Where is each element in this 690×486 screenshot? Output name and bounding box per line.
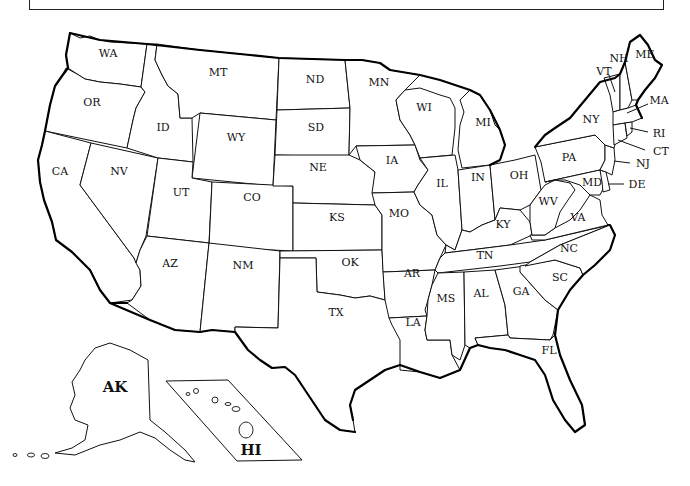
label-NH: NH	[609, 52, 628, 65]
state-FL[interactable]	[475, 335, 585, 432]
label-HI: HI	[240, 441, 261, 459]
label-SD: SD	[308, 121, 325, 134]
label-WV: WV	[538, 195, 558, 208]
state-CT[interactable]	[613, 123, 627, 145]
label-NJ: NJ	[636, 157, 650, 170]
aleutian-island	[28, 453, 35, 457]
label-NC: NC	[560, 242, 578, 255]
hawaii-inset-box	[166, 380, 302, 461]
label-NY: NY	[583, 113, 601, 126]
label-NM: NM	[233, 259, 254, 272]
label-MO: MO	[389, 207, 409, 220]
label-UT: UT	[173, 186, 190, 199]
label-KY: KY	[495, 218, 511, 231]
leader-RI	[630, 128, 648, 132]
label-IN: IN	[471, 171, 485, 184]
state-WY[interactable]	[192, 113, 276, 186]
aleutian-island	[41, 454, 49, 459]
state-MI[interactable]	[458, 90, 505, 168]
label-MT: MT	[209, 66, 228, 79]
label-AR: AR	[403, 267, 421, 280]
aleutian-island	[13, 454, 17, 457]
label-ID: ID	[156, 121, 169, 134]
label-AL: AL	[472, 287, 489, 300]
label-NE: NE	[309, 161, 327, 174]
label-CO: CO	[243, 191, 260, 204]
label-MD: MD	[582, 176, 602, 189]
label-KS: KS	[329, 211, 345, 224]
label-WY: WY	[227, 131, 246, 144]
us-map: WA OR CA NV ID MT WY UT CO AZ NM ND SD N…	[0, 0, 690, 486]
label-RI: RI	[653, 127, 666, 140]
label-NV: NV	[110, 165, 129, 178]
label-PA: PA	[562, 151, 577, 164]
leader-CT	[618, 140, 645, 150]
label-WI: WI	[416, 101, 432, 114]
label-DE: DE	[629, 178, 646, 191]
label-WA: WA	[99, 47, 119, 60]
label-SC: SC	[552, 271, 568, 284]
label-VT: VT	[595, 65, 612, 78]
state-AK[interactable]	[55, 343, 195, 462]
label-FL: FL	[542, 344, 558, 357]
label-MS: MS	[437, 292, 456, 305]
label-AK: AK	[102, 378, 129, 396]
leader-NJ	[614, 161, 630, 163]
label-ND: ND	[306, 73, 325, 86]
label-IL: IL	[436, 177, 448, 190]
label-IA: IA	[386, 154, 399, 167]
label-OR: OR	[83, 96, 101, 109]
label-OH: OH	[510, 169, 529, 182]
label-CT: CT	[653, 145, 669, 158]
label-MI: MI	[475, 116, 491, 129]
label-ME: ME	[635, 48, 654, 61]
label-MA: MA	[649, 94, 669, 107]
label-TX: TX	[328, 306, 343, 319]
state-NM[interactable]	[200, 243, 280, 332]
label-AZ: AZ	[161, 257, 178, 270]
label-CA: CA	[52, 165, 69, 178]
label-VA: VA	[569, 211, 586, 224]
label-MN: MN	[369, 76, 390, 89]
label-OK: OK	[341, 256, 359, 269]
label-TN: TN	[477, 249, 494, 262]
label-LA: LA	[405, 316, 421, 329]
label-GA: GA	[513, 285, 531, 298]
